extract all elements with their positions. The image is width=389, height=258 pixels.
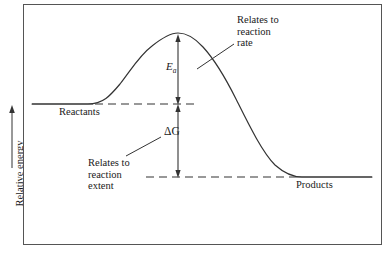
activation-energy-symbol: E xyxy=(166,60,173,72)
rate-callout: Relates to reaction rate xyxy=(237,14,279,49)
activation-energy-subscript: a xyxy=(173,66,177,75)
activation-energy-label: Ea xyxy=(166,61,176,77)
rate-callout-line-1: Relates to xyxy=(237,14,279,26)
rate-callout-line-3: rate xyxy=(237,37,279,49)
extent-callout-line-2: reaction xyxy=(88,169,130,181)
free-energy-label: ΔG xyxy=(164,126,180,138)
y-axis-arrow-head-icon xyxy=(9,105,15,113)
rate-callout-line-2: reaction xyxy=(237,26,279,38)
reactants-label: Reactants xyxy=(59,106,100,118)
extent-callout-line-1: Relates to xyxy=(88,157,130,169)
products-label: Products xyxy=(296,179,333,191)
plot-border xyxy=(24,5,382,245)
plot-border-group xyxy=(24,5,382,245)
y-axis-arrow-group xyxy=(9,105,15,168)
energy-diagram-figure: Relative energy xyxy=(0,0,389,258)
extent-callout-line-3: extent xyxy=(88,180,130,192)
plot-canvas xyxy=(0,0,389,258)
extent-callout: Relates to reaction extent xyxy=(88,157,130,192)
